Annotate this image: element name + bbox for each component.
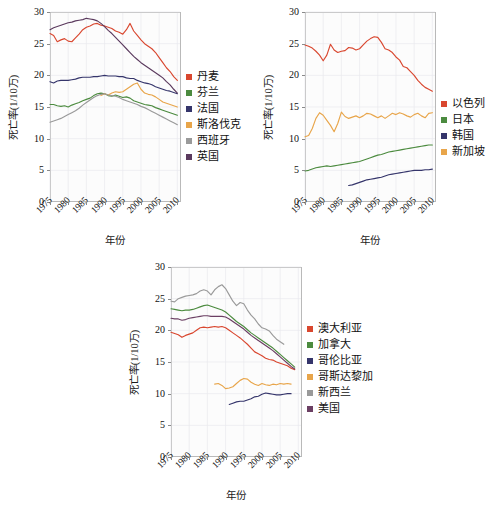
x-tick-mark [123,202,124,205]
legend-item[interactable]: 加拿大 [307,337,373,352]
legend-item[interactable]: 哥伦比亚 [307,353,373,368]
y-tick-mark [302,44,305,45]
series-line [171,305,295,367]
y-tick-label: 15 [277,101,299,112]
legend-label: 英国 [197,151,219,162]
legend-item[interactable]: 以色列 [441,96,485,111]
y-tick-label: 5 [22,164,44,175]
y-tick-mark [302,139,305,140]
legend-swatch-icon [441,117,447,123]
legend-item[interactable]: 哥斯达黎加 [307,369,373,384]
x-tick-mark [226,457,227,460]
x-tick-mark [50,202,51,205]
legend-item[interactable]: 新加坡 [441,144,485,159]
legend-label: 以色列 [452,98,485,109]
y-tick-mark [302,75,305,76]
x-tick-mark [177,202,178,205]
y-tick-label: 20 [143,324,165,335]
legend-item[interactable]: 芬兰 [186,85,241,100]
y-tick-mark [168,425,171,426]
legend-b: 以色列日本韩国新加坡 [441,96,485,160]
legend-item[interactable]: 斯洛伐克 [186,117,241,132]
y-tick-mark [168,299,171,300]
legend-item[interactable]: 丹麦 [186,69,241,84]
series-line [215,378,291,388]
legend-label: 韩国 [452,130,474,141]
legend-label: 澳大利亚 [318,323,362,334]
series-line [229,393,291,404]
legend-swatch-icon [186,74,192,80]
x-tick-mark [159,202,160,205]
series-line [305,145,432,171]
y-tick-mark [168,362,171,363]
legend-swatch-icon [186,90,192,96]
legend-swatch-icon [186,106,192,112]
x-tick-mark [244,457,245,460]
legend-item[interactable]: 英国 [186,149,241,164]
legend-item[interactable]: 西班牙 [186,133,241,148]
x-tick-mark [189,457,190,460]
series-line [305,112,432,137]
plot-area-a: 死亡率(1/10万) 051015202530 1975198019851990… [0,0,250,252]
y-tick-label: 25 [22,38,44,49]
series-line [305,37,432,91]
y-tick-label: 5 [143,419,165,430]
x-tick-mark [298,457,299,460]
y-tick-label: 25 [277,38,299,49]
y-tick-mark [168,394,171,395]
x-tick-mark [305,202,306,205]
legend-item[interactable]: 韩国 [441,128,485,143]
legend-swatch-icon [307,326,313,332]
legend-label: 美国 [318,403,340,414]
y-tick-mark [168,267,171,268]
legend-swatch-icon [441,101,447,107]
x-tick-mark [280,457,281,460]
legend-label: 芬兰 [197,87,219,98]
y-tick-mark [47,170,50,171]
x-tick-mark [432,202,433,205]
y-tick-mark [168,330,171,331]
plot-area-b: 死亡率(1/10万) 051015202530 1975198019851990… [250,0,499,252]
y-tick-label: 15 [143,356,165,367]
y-tick-label: 15 [22,101,44,112]
series-line [171,285,284,345]
chart-panel-americas-group: 死亡率(1/10万) 051015202530 1975198019851990… [120,255,382,510]
legend-a: 丹麦芬兰法国斯洛伐克西班牙英国 [186,69,241,165]
y-tick-mark [47,12,50,13]
y-tick-label: 5 [277,164,299,175]
series-line [171,316,295,369]
legend-label: 哥伦比亚 [318,355,362,366]
legend-label: 日本 [452,114,474,125]
legend-swatch-icon [186,122,192,128]
x-tick-mark [207,457,208,460]
x-tick-mark [414,202,415,205]
y-tick-label: 25 [143,293,165,304]
y-tick-mark [302,12,305,13]
legend-swatch-icon [186,138,192,144]
legend-item[interactable]: 新西兰 [307,385,373,400]
legend-item[interactable]: 美国 [307,401,373,416]
legend-swatch-icon [307,358,313,364]
series-line [50,23,177,80]
legend-item[interactable]: 日本 [441,112,485,127]
legend-item[interactable]: 法国 [186,101,241,116]
legend-swatch-icon [307,406,313,412]
x-tick-mark [68,202,69,205]
legend-label: 法国 [197,103,219,114]
y-tick-mark [47,107,50,108]
legend-swatch-icon [186,154,192,160]
y-tick-label: 20 [277,69,299,80]
legend-label: 丹麦 [197,71,219,82]
series-line [50,75,177,93]
x-tick-mark [378,202,379,205]
x-axis-label-a: 年份 [70,232,160,247]
x-tick-mark [105,202,106,205]
legend-swatch-icon [441,133,447,139]
legend-label: 新西兰 [318,387,351,398]
x-tick-mark [262,457,263,460]
y-tick-label: 20 [22,69,44,80]
y-tick-mark [47,75,50,76]
x-tick-mark [86,202,87,205]
legend-label: 加拿大 [318,339,351,350]
legend-item[interactable]: 澳大利亚 [307,321,373,336]
